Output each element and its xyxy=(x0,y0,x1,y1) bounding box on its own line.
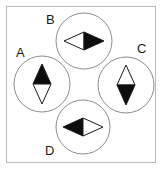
node-d-label: D xyxy=(45,144,54,157)
node-d[interactable] xyxy=(56,100,110,154)
node-a[interactable] xyxy=(14,56,70,112)
diagram-canvas xyxy=(0,0,163,171)
node-b-label: B xyxy=(46,13,55,26)
node-b[interactable] xyxy=(56,13,112,69)
diagram-svg xyxy=(0,0,163,171)
node-c-label: C xyxy=(137,42,146,55)
figure-panel: A B C D xyxy=(0,0,163,171)
node-c[interactable] xyxy=(98,57,154,113)
node-a-label: A xyxy=(16,46,25,59)
